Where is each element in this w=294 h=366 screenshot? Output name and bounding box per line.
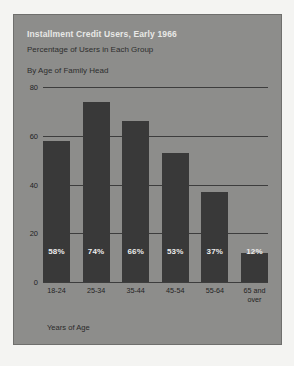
x-axis-tick-labels: 18-2425-3435-4445-5455-6465 andover [43,286,268,304]
y-axis-tick-label: 20 [30,229,38,238]
bar: 74% [83,102,110,282]
x-axis-category-label: 18-24 [43,286,70,304]
bar-slot: 37% [201,87,228,282]
bar: 12% [241,253,268,282]
y-axis-tick-label: 0 [34,278,38,287]
x-axis-category-line: 25-34 [83,286,110,295]
x-axis-category-line: 45-54 [162,286,189,295]
bar-value-label: 12% [241,247,268,256]
bar-series: 58%74%66%53%37%12% [43,87,268,282]
page-title: Installment Credit Users, Early 1966 [27,29,177,39]
x-axis-category-label: 35-44 [122,286,149,304]
plot-area: 806040200 58%74%66%53%37%12% [43,87,268,282]
bar-value-label: 66% [122,247,149,256]
chart-panel: Installment Credit Users, Early 1966 Per… [13,14,282,345]
x-axis-category-label: 65 andover [241,286,268,304]
x-axis-category-line: 65 and [241,286,268,295]
bar: 53% [162,153,189,282]
x-axis-category-line: 18-24 [43,286,70,295]
bar-value-label: 74% [83,247,110,256]
y-axis-tick-label: 40 [30,180,38,189]
bar: 58% [43,141,70,282]
x-axis-title: Years of Age [47,323,90,332]
bar-value-label: 53% [162,247,189,256]
chart-subtitle: Percentage of Users in Each Group [27,45,153,54]
x-axis-category-label: 45-54 [162,286,189,304]
bar-slot: 66% [122,87,149,282]
bar-value-label: 58% [43,247,70,256]
bar-slot: 53% [162,87,189,282]
x-axis-category-line: 35-44 [122,286,149,295]
y-axis-tick-label: 80 [30,83,38,92]
y-axis-tick-label: 60 [30,131,38,140]
x-axis-category-label: 55-64 [201,286,228,304]
bar: 37% [201,192,228,282]
bar-slot: 12% [241,87,268,282]
bar-value-label: 37% [201,247,228,256]
x-axis-category-line: over [241,295,268,304]
bar-slot: 74% [83,87,110,282]
bar-slot: 58% [43,87,70,282]
bar: 66% [122,121,149,282]
chart-group-label: By Age of Family Head [27,66,108,75]
x-axis-category-line: 55-64 [201,286,228,295]
x-axis-category-label: 25-34 [83,286,110,304]
x-axis-line [43,282,268,283]
